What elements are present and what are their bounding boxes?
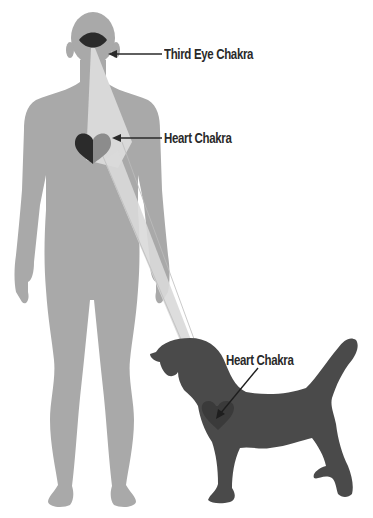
- arrow-third-eye: [108, 50, 162, 58]
- dog-heart-chakra-label: Heart Chakra: [226, 352, 294, 368]
- chakra-diagram: Third Eye Chakra Heart Chakra Heart Chak…: [0, 0, 373, 518]
- third-eye-chakra-label: Third Eye Chakra: [164, 46, 253, 62]
- human-heart-chakra-label: Heart Chakra: [164, 130, 232, 146]
